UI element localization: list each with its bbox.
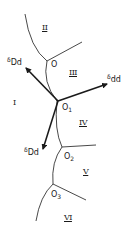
region-label-VI: VI — [64, 214, 72, 222]
boundary-curve-top — [25, 14, 47, 61]
boundary-O-right — [47, 42, 82, 61]
vector-label-dd-right: δdd — [107, 74, 121, 84]
region-label-V: V — [83, 168, 88, 176]
region-label-IV: IV — [79, 119, 87, 127]
junction-label-O: O — [51, 61, 57, 69]
boundary-lines — [0, 0, 128, 236]
junction-label-O1: O1 — [62, 104, 72, 113]
vector-label-Dd-lower: δDd — [24, 147, 39, 157]
boundary-O2-right — [62, 145, 96, 147]
vector-Dd-upper-arrow — [26, 68, 58, 101]
boundary-O2-O3 — [53, 147, 62, 184]
region-label-III: III — [69, 69, 77, 77]
vector-dd-right-arrow — [58, 84, 107, 101]
region-label-II: II — [42, 24, 47, 32]
region-label-I: I — [13, 99, 16, 107]
vector-label-Dd-upper: δDd — [7, 57, 22, 67]
junction-label-O3: O3 — [51, 191, 61, 200]
junction-label-O2: O2 — [64, 153, 74, 162]
diagram-canvas: II III I IV V VI O O1 O2 O3 δDd δdd δDd — [0, 0, 128, 236]
vector-Dd-lower-arrow — [43, 101, 58, 149]
